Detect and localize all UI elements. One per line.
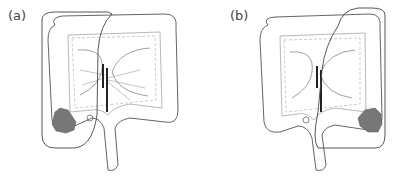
- panel-a: (a): [0, 0, 200, 180]
- colon-diagram-a: [0, 0, 200, 180]
- panel-b: (b): [200, 0, 400, 180]
- colon-diagram-b: [200, 0, 400, 180]
